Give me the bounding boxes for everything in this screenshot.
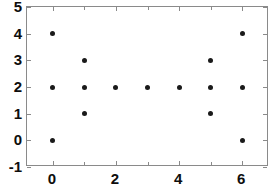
x-axis-tick-label: 6 bbox=[237, 171, 245, 186]
y-axis-tick-label: 4 bbox=[14, 25, 22, 40]
data-point bbox=[82, 111, 87, 116]
y-axis-tick-label: 2 bbox=[14, 79, 22, 94]
y-axis-tick-label: 0 bbox=[14, 132, 22, 147]
data-point bbox=[240, 85, 245, 90]
data-point bbox=[82, 85, 87, 90]
y-axis-tick-mark bbox=[27, 167, 31, 168]
y-axis-tick-label: 5 bbox=[14, 0, 22, 14]
y-axis-tick-label: -1 bbox=[9, 159, 22, 174]
data-point bbox=[145, 85, 150, 90]
y-axis-tick-label: 1 bbox=[14, 105, 22, 120]
data-point bbox=[240, 31, 245, 36]
x-axis-tick-label: 2 bbox=[111, 171, 119, 186]
x-axis-tick-label: 0 bbox=[48, 171, 56, 186]
y-axis-tick-label: 3 bbox=[14, 52, 22, 67]
data-point bbox=[208, 111, 213, 116]
plot-frame bbox=[26, 6, 268, 166]
x-axis-tick-label: 4 bbox=[174, 171, 182, 186]
data-point bbox=[208, 85, 213, 90]
data-point bbox=[177, 85, 182, 90]
data-point bbox=[50, 31, 55, 36]
data-point-layer bbox=[27, 7, 267, 165]
data-point bbox=[240, 138, 245, 143]
data-point bbox=[82, 58, 87, 63]
data-point bbox=[50, 85, 55, 90]
scatter-plot-figure: 0246 -1012345 bbox=[0, 0, 273, 191]
y-axis-tick-mark bbox=[263, 167, 267, 168]
data-point bbox=[50, 138, 55, 143]
data-point bbox=[208, 58, 213, 63]
data-point bbox=[113, 85, 118, 90]
